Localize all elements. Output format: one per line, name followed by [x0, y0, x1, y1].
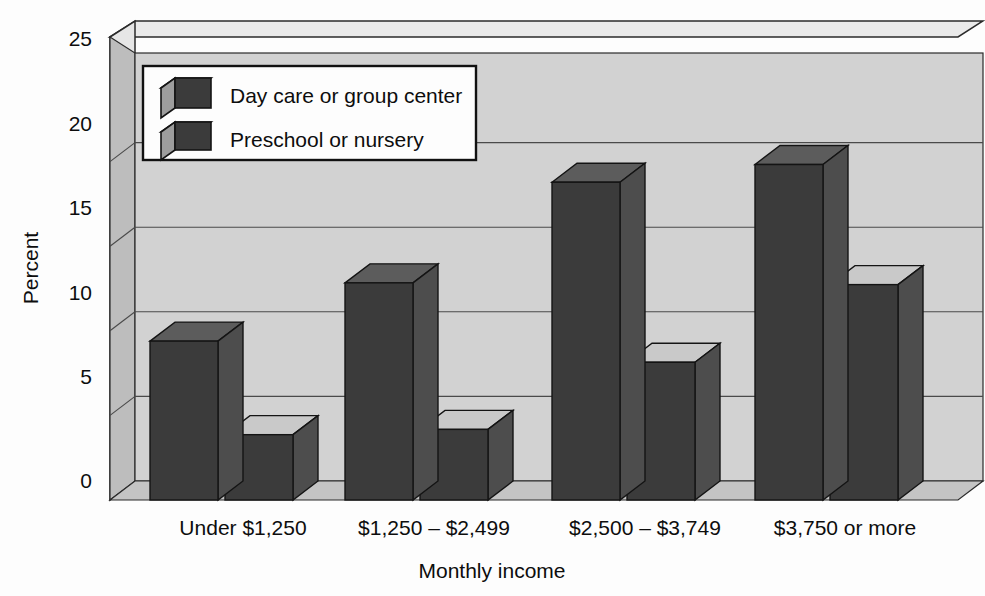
x-tick-label: Under $1,250 — [179, 516, 306, 539]
bar-chart: 25 20 15 10 5 0 Percent Under $1,250 $1,… — [0, 0, 985, 596]
y-tick-label: 5 — [80, 365, 92, 388]
legend: Day care or group center Preschool or nu… — [143, 66, 476, 160]
x-tick-label: $1,250 – $2,499 — [358, 516, 510, 539]
chart-root: 25 20 15 10 5 0 Percent Under $1,250 $1,… — [0, 0, 985, 596]
y-axis-title: Percent — [19, 232, 42, 305]
y-tick-label: 15 — [69, 196, 92, 219]
bar-daycare-0 — [150, 322, 243, 500]
plot-wall-left — [110, 37, 135, 500]
y-tick-label: 20 — [69, 112, 92, 135]
legend-label: Day care or group center — [230, 84, 462, 107]
x-tick-label: $2,500 – $3,749 — [569, 516, 721, 539]
bar-front-face — [150, 341, 218, 500]
bar-side-face — [898, 266, 923, 500]
x-axis-title: Monthly income — [418, 559, 565, 582]
legend-label: Preschool or nursery — [230, 128, 424, 151]
bar-side-face — [695, 343, 720, 500]
bar-daycare-1 — [345, 264, 438, 500]
bar-side-face — [218, 322, 243, 500]
bar-front-face — [552, 182, 620, 500]
bar-daycare-2 — [552, 163, 645, 500]
bar-side-face — [413, 264, 438, 500]
y-tick-label: 10 — [69, 281, 92, 304]
frame-top-bevel — [110, 21, 983, 37]
bar-daycare-3 — [755, 146, 848, 500]
y-tick-label: 25 — [69, 27, 92, 50]
bar-front-face — [755, 165, 823, 500]
bar-front-face — [345, 283, 413, 500]
bar-side-face — [620, 163, 645, 500]
y-tick-label: 0 — [80, 469, 92, 492]
x-tick-label: $3,750 or more — [774, 516, 916, 539]
bar-side-face — [823, 146, 848, 500]
